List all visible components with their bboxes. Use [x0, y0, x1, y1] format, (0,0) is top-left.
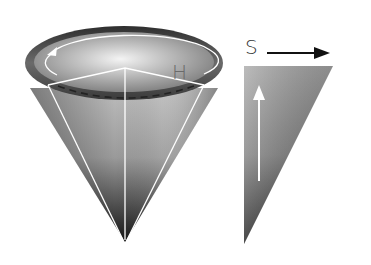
hsv-cone: H: [25, 26, 223, 242]
hsv-diagram: H S: [0, 0, 371, 265]
saturation-arrow-head-icon: [314, 47, 330, 59]
sv-triangle: S: [244, 35, 333, 244]
saturation-label: S: [245, 35, 258, 59]
hue-label: H: [172, 60, 187, 84]
